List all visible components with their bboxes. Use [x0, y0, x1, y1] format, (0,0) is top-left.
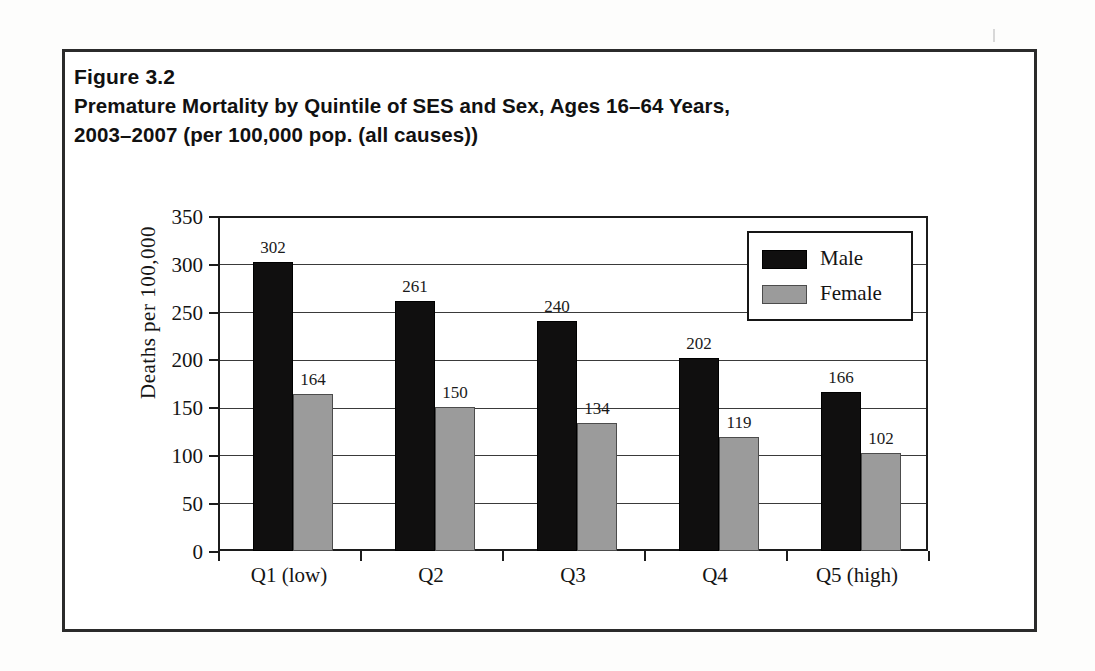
y-axis-tick	[209, 216, 218, 218]
x-axis-tick	[360, 551, 362, 561]
legend-label-female: Female	[820, 281, 882, 306]
bar-female-q3	[577, 423, 617, 551]
bar-male-q2	[395, 301, 435, 551]
x-axis-tick	[786, 551, 788, 561]
y-tick-label: 350	[133, 205, 203, 230]
bar-value-male-q4: 202	[664, 334, 734, 354]
bar-female-q2	[435, 407, 475, 551]
bar-value-female-q5: 102	[846, 429, 916, 449]
bar-value-female-q2: 150	[420, 383, 490, 403]
x-tick-label-q2: Q2	[351, 563, 511, 588]
bar-value-female-q3: 134	[562, 399, 632, 419]
bar-male-q1	[253, 262, 293, 551]
y-tick-label: 250	[133, 301, 203, 326]
y-axis-tick	[209, 455, 218, 457]
bar-female-q5	[861, 453, 901, 551]
y-tick-label: 300	[133, 253, 203, 278]
bar-value-male-q5: 166	[806, 368, 876, 388]
y-tick-label: 100	[133, 444, 203, 469]
scanned-page-background: Figure 3.2 Premature Mortality by Quinti…	[0, 0, 1095, 671]
bar-value-male-q1: 302	[238, 238, 308, 258]
y-axis-tick	[209, 264, 218, 266]
legend-swatch-male-icon	[762, 250, 807, 269]
y-axis-tick	[209, 503, 218, 505]
bar-male-q3	[537, 321, 577, 551]
x-axis-tick	[928, 551, 930, 561]
y-tick-label: 150	[133, 396, 203, 421]
bar-chart: Deaths per 100,000 350 300 250 200 150 1…	[0, 0, 1095, 671]
x-tick-label-q5: Q5 (high)	[777, 563, 937, 588]
bar-male-q5	[821, 392, 861, 551]
x-axis-tick	[502, 551, 504, 561]
y-axis-tick	[209, 551, 218, 553]
y-tick-label: 0	[133, 540, 203, 565]
x-axis-tick	[644, 551, 646, 561]
y-axis-tick	[209, 312, 218, 314]
x-tick-label-q4: Q4	[635, 563, 795, 588]
x-tick-label-q3: Q3	[493, 563, 653, 588]
bar-value-female-q4: 119	[704, 413, 774, 433]
legend-swatch-female-icon	[762, 285, 807, 304]
bar-female-q4	[719, 437, 759, 551]
y-tick-label: 50	[133, 492, 203, 517]
bar-value-male-q3: 240	[522, 297, 592, 317]
x-axis-tick	[218, 551, 220, 561]
bar-value-female-q1: 164	[278, 370, 348, 390]
bar-value-male-q2: 261	[380, 277, 450, 297]
y-axis-tick	[209, 359, 218, 361]
chart-legend: Male Female	[747, 231, 913, 321]
x-tick-label-q1: Q1 (low)	[209, 563, 369, 588]
y-tick-label: 200	[133, 348, 203, 373]
bar-female-q1	[293, 394, 333, 551]
bar-male-q4	[679, 358, 719, 551]
legend-label-male: Male	[820, 246, 863, 271]
y-axis-tick	[209, 407, 218, 409]
